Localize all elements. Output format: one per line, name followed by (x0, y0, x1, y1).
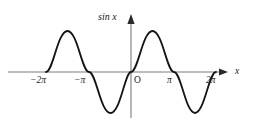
sine-function-figure: sin x x −2π −π O π 2π (0, 0, 255, 129)
sine-plot-svg (0, 0, 255, 129)
y-axis-label: sin x (98, 12, 117, 22)
x-tick-label-neg-pi: −π (74, 76, 85, 86)
y-axis-arrowhead (127, 14, 134, 24)
origin-label: O (134, 76, 141, 86)
x-axis-arrowhead (219, 69, 228, 76)
x-axis-label: x (235, 67, 239, 77)
x-tick-label-neg-two-pi: −2π (30, 76, 46, 86)
x-tick-label-pi: π (167, 76, 172, 86)
x-tick-label-two-pi: 2π (206, 76, 216, 86)
